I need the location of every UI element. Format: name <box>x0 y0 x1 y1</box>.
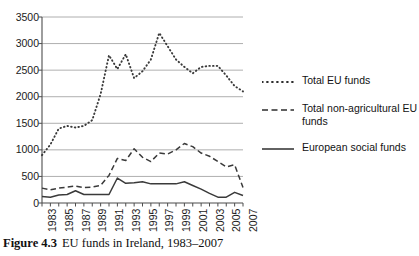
figure-container: 0500100015002000250030003500 19831985198… <box>0 0 419 256</box>
x-tick-label: 2007 <box>247 209 259 232</box>
legend-item-label: Total EU funds <box>302 74 370 87</box>
x-tick-label: 1993 <box>130 209 142 232</box>
x-tick-label: 1985 <box>63 209 75 232</box>
x-tick-label: 1999 <box>180 209 192 232</box>
x-tick-label: 1997 <box>163 209 175 232</box>
x-tick-label: 1987 <box>80 209 92 232</box>
figure-caption-text: EU funds in Ireland, 1983–2007 <box>62 236 223 250</box>
legend-swatch-dotted <box>262 76 294 88</box>
chart-legend: Total EU fundsTotal non-agricultural EU … <box>262 74 419 169</box>
legend-item-label: Total non-agricultural EU funds <box>302 102 419 127</box>
legend-swatch-dashed <box>262 104 294 116</box>
x-tick-label: 1989 <box>96 209 108 232</box>
x-axis-tick-labels: 1983198519871989199119931995199719992001… <box>0 0 260 256</box>
x-tick-label: 1995 <box>147 209 159 232</box>
chart-plot-area: 0500100015002000250030003500 19831985198… <box>0 0 260 232</box>
x-tick-label: 1983 <box>46 209 58 232</box>
legend-item: Total non-agricultural EU funds <box>262 102 419 127</box>
x-tick-label: 2003 <box>214 209 226 232</box>
legend-swatch-solid <box>262 143 294 155</box>
legend-item: Total EU funds <box>262 74 419 88</box>
figure-caption-label: Figure 4.3 <box>3 236 57 250</box>
x-tick-label: 1991 <box>113 209 125 232</box>
x-tick-label: 2001 <box>197 209 209 232</box>
legend-item: European social funds <box>262 141 419 155</box>
legend-item-label: European social funds <box>302 141 406 154</box>
figure-caption: Figure 4.3EU funds in Ireland, 1983–2007 <box>3 236 223 251</box>
x-tick-label: 2005 <box>230 209 242 232</box>
